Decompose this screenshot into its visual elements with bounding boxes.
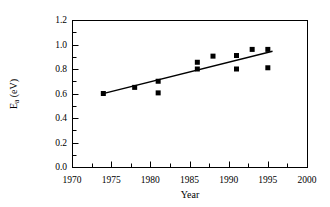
- x-axis-tick-label: 1970: [63, 175, 82, 185]
- data-point-marker: [195, 60, 200, 65]
- data-point-marker: [156, 79, 161, 84]
- data-point-marker: [250, 47, 255, 52]
- y-axis-tick-label: 1.0: [55, 40, 67, 50]
- plot-frame: [73, 21, 308, 168]
- data-point-marker: [132, 85, 137, 90]
- x-axis-title: Year: [181, 189, 199, 200]
- data-point-marker: [195, 67, 200, 72]
- data-point-marker: [101, 91, 106, 96]
- y-axis-tick-label: 1.2: [55, 15, 67, 25]
- x-axis-tick-label: 1990: [219, 175, 238, 185]
- scatter-plot-canvas: [0, 0, 330, 207]
- y-axis-title-base: E: [8, 103, 19, 109]
- y-axis-tick-label: 0.4: [55, 113, 67, 123]
- x-axis-tick-label: 1985: [180, 175, 199, 185]
- chart-figure: 0.00.20.40.60.81.01.2 197019751980198519…: [0, 0, 330, 207]
- y-axis-tick-label: 0.0: [55, 162, 67, 172]
- y-axis-tick-label: 0.8: [55, 64, 67, 74]
- data-point-marker: [265, 47, 270, 52]
- y-axis-tick-label: 0.6: [55, 89, 67, 99]
- y-axis-title-unit: (eV): [8, 79, 19, 100]
- x-axis-tick-label: 1995: [258, 175, 277, 185]
- x-axis-tick-label: 1975: [102, 175, 121, 185]
- trend-line: [101, 51, 273, 94]
- data-point-marker: [211, 54, 216, 59]
- y-axis-tick-label: 0.2: [55, 138, 67, 148]
- y-axis-title: Ea (eV): [8, 79, 19, 109]
- data-point-marker: [234, 67, 239, 72]
- data-point-marker: [234, 53, 239, 58]
- data-point-marker: [265, 65, 270, 70]
- data-point-marker: [156, 90, 161, 95]
- y-axis-title-subscript: a: [13, 100, 21, 103]
- x-axis-tick-label: 2000: [298, 175, 317, 185]
- x-axis-tick-label: 1980: [141, 175, 160, 185]
